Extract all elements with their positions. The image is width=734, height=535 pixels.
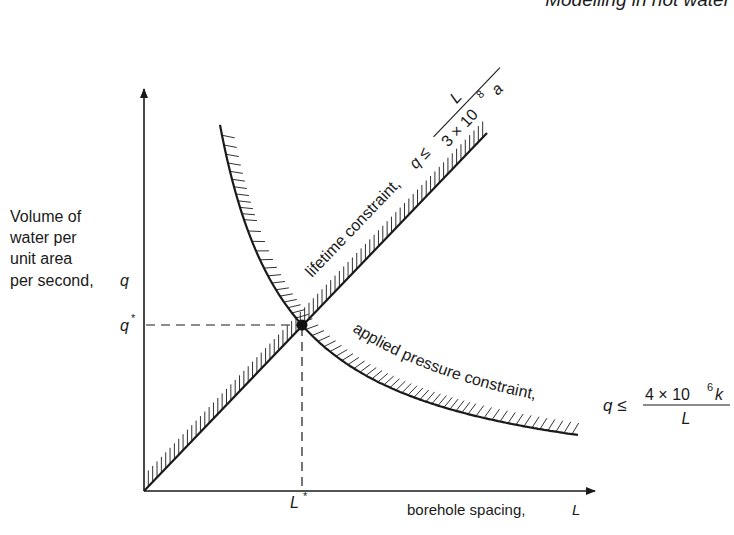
- optimum-point: [297, 320, 308, 331]
- y-label-line-4: per second,: [10, 272, 94, 289]
- y-symbol: q: [120, 272, 129, 289]
- y-axis-label: Volume of water per unit area per second…: [9, 208, 129, 289]
- pressure-label-text: applied pressure constraint,: [350, 319, 538, 402]
- l-star-letter: L: [290, 494, 299, 511]
- running-header: Modelling in hot water: [545, 0, 730, 10]
- x-label-text: borehole spacing,: [407, 501, 525, 518]
- y-label-line-3: unit area: [10, 250, 72, 267]
- x-symbol: L: [572, 501, 580, 518]
- pressure-constraint-label: applied pressure constraint,: [350, 319, 538, 402]
- pressure-numerator-tail: k: [715, 386, 724, 403]
- pressure-numerator-exp: 6: [707, 381, 713, 393]
- lifetime-constraint-label: lifetime constraint, q ≤ L 3 × 10 8 a: [290, 54, 515, 286]
- q-star-sup: *: [131, 312, 136, 324]
- pressure-lhs: q ≤: [603, 396, 627, 415]
- lifetime-denominator-exp: 8: [474, 88, 487, 101]
- q-star-marker: q *: [120, 312, 136, 334]
- pressure-numerator-base: 4 × 10: [645, 386, 690, 403]
- lifetime-numerator: L: [446, 88, 464, 106]
- lifetime-constraint-line: [144, 122, 487, 491]
- lifetime-denominator-base: 3 × 10: [438, 106, 481, 150]
- lifetime-denominator-tail: a: [488, 80, 506, 98]
- y-label-line-1: Volume of: [10, 208, 82, 225]
- l-star-sup: *: [303, 490, 308, 502]
- lifetime-lhs: q ≤: [406, 144, 434, 172]
- pressure-denominator: L: [682, 410, 691, 427]
- axes: [144, 89, 595, 491]
- lifetime-fraction: L 3 × 10 8 a: [419, 54, 515, 152]
- constraint-diagram: Modelling in hot water Volume of water p…: [0, 0, 734, 535]
- l-star-marker: L *: [290, 490, 308, 511]
- y-label-line-2: water per: [9, 229, 77, 246]
- x-axis-label: borehole spacing, L: [407, 501, 580, 518]
- q-star-letter: q: [120, 317, 129, 334]
- lifetime-hatching: [148, 122, 482, 487]
- pressure-formula: q ≤ 4 × 10 6 k L: [603, 381, 730, 427]
